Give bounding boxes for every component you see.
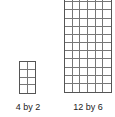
grid-cell [96,10,104,18]
grid-cell [80,68,88,76]
grid-cell [96,68,104,76]
grid-cell [80,27,88,35]
grid-cell [28,62,36,70]
grid-cell [20,62,28,70]
grid-cell [73,2,81,10]
grid-cell [20,70,28,78]
grid-cell [65,35,73,43]
grid-cell [103,59,111,67]
grid-cell [28,85,36,93]
grid-cell [80,84,88,92]
grid-cell [88,51,96,59]
small-grid [19,61,36,94]
grid-cell [28,78,36,86]
grid-cell [65,68,73,76]
grid-cell [103,2,111,10]
grid-cell [20,78,28,86]
grid-cell [96,84,104,92]
grid-cell [80,2,88,10]
grid-cell [88,19,96,27]
grid-cell [80,51,88,59]
grid-cell [73,19,81,27]
grid-cell [103,68,111,76]
grid-cell [96,35,104,43]
grid-cell [73,10,81,18]
grid-cell [96,43,104,51]
grid-cell [88,59,96,67]
grid-cell [88,35,96,43]
grid-cell [73,35,81,43]
grid-cell [65,76,73,84]
grid-cell [80,43,88,51]
grid-cell [103,10,111,18]
grid-cell [88,76,96,84]
grid-cell [103,51,111,59]
grid-cell [73,43,81,51]
large-grid [64,0,112,93]
grid-cell [65,19,73,27]
grid-cell [80,10,88,18]
grid-cell [96,2,104,10]
grid-cell [65,2,73,10]
grid-cell [96,51,104,59]
grid-cell [28,70,36,78]
grid-cell [96,19,104,27]
grid-cell [96,59,104,67]
small-grid-label: 4 by 2 [8,102,48,112]
grid-cell [88,27,96,35]
grid-cell [96,76,104,84]
grid-cell [65,51,73,59]
large-grid-label: 12 by 6 [62,102,114,112]
grid-cell [88,10,96,18]
grid-cell [73,27,81,35]
grid-cell [65,43,73,51]
grid-cell [103,76,111,84]
grid-cell [103,35,111,43]
grid-cell [20,85,28,93]
grid-cell [80,76,88,84]
grid-cell [73,76,81,84]
grid-cell [80,19,88,27]
grid-cell [88,2,96,10]
grid-cell [80,35,88,43]
grid-cell [65,84,73,92]
grid-cell [73,68,81,76]
grid-cell [73,51,81,59]
grid-cell [96,27,104,35]
grid-cell [73,59,81,67]
grid-cell [73,84,81,92]
grid-cell [88,43,96,51]
grid-cell [88,68,96,76]
grid-cell [65,59,73,67]
grid-cell [103,84,111,92]
grid-cell [88,84,96,92]
grid-cell [103,27,111,35]
grid-cell [103,19,111,27]
grid-cell [80,59,88,67]
grid-cell [65,27,73,35]
grid-cell [103,43,111,51]
grid-cell [65,10,73,18]
